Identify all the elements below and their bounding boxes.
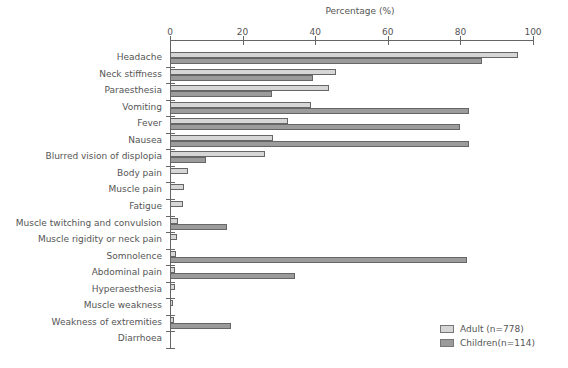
category-label: Headache [117, 52, 162, 62]
y-tick-mark [166, 166, 175, 167]
children-bar [170, 273, 295, 279]
y-tick-mark [166, 315, 175, 316]
y-tick-mark [166, 265, 175, 266]
y-tick-mark [166, 232, 175, 233]
category-label: Paraesthesia [105, 85, 162, 95]
x-axis-title: Percentage (%) [290, 6, 430, 16]
children-bar [170, 124, 460, 130]
category-label: Body pain [117, 168, 162, 178]
y-tick-mark [166, 149, 175, 150]
children-bar [170, 224, 227, 230]
children-bar [170, 157, 206, 163]
legend-label-adult: Adult (n=778) [460, 324, 524, 334]
adult-bar [170, 234, 177, 240]
y-tick-mark [166, 199, 175, 200]
category-label: Fever [137, 118, 162, 128]
category-label: Nausea [128, 135, 162, 145]
children-bar [170, 323, 231, 329]
children-bar [170, 75, 313, 81]
y-tick-mark [166, 83, 175, 84]
y-tick-mark [166, 249, 175, 250]
category-label: Abdominal pain [92, 267, 162, 277]
children-bar [170, 108, 469, 114]
y-tick-mark [166, 133, 175, 134]
adult-bar [170, 300, 173, 306]
y-tick-mark [166, 298, 175, 299]
y-tick-mark [166, 216, 175, 217]
category-label: Blurred vision of displopia [45, 151, 162, 161]
legend: Adult (n=778) Children(n=114) [440, 322, 535, 350]
category-label: Muscle twitching and convulsion [16, 218, 162, 228]
children-bar [170, 91, 272, 97]
legend-swatch-adult [440, 325, 454, 333]
legend-swatch-children [440, 339, 454, 347]
category-label: Neck stiffness [99, 69, 162, 79]
category-label: Muscle rigidity or neck pain [38, 234, 162, 244]
y-tick-mark [166, 182, 175, 183]
y-tick-mark [166, 100, 175, 101]
category-label: Hyperaesthesia [92, 284, 162, 294]
category-label: Vomiting [122, 102, 162, 112]
x-axis-line [170, 40, 534, 41]
adult-bar [170, 184, 184, 190]
adult-bar [170, 201, 183, 207]
legend-item-children: Children(n=114) [440, 336, 535, 350]
category-label: Weakness of extremities [52, 317, 162, 327]
y-tick-mark [166, 331, 175, 332]
children-bar [170, 141, 469, 147]
y-tick-mark [166, 282, 175, 283]
y-tick-mark [166, 348, 175, 349]
legend-item-adult: Adult (n=778) [440, 322, 535, 336]
category-label: Muscle pain [109, 184, 162, 194]
children-bar [170, 58, 482, 64]
category-label: Diarrhoea [118, 333, 162, 343]
legend-label-children: Children(n=114) [460, 338, 535, 348]
adult-bar [170, 168, 188, 174]
category-label: Muscle weakness [84, 300, 162, 310]
category-label: Fatigue [129, 201, 162, 211]
adult-bar [170, 284, 175, 290]
category-label: Somnolence [107, 251, 162, 261]
y-tick-mark [166, 67, 175, 68]
children-bar [170, 257, 467, 263]
y-tick-mark [166, 116, 175, 117]
